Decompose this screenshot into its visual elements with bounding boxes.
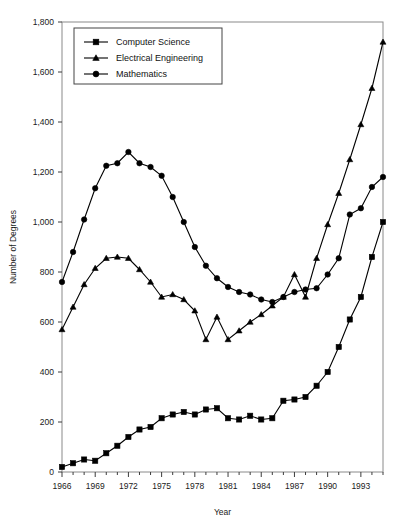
data-point-square [93,39,99,45]
x-axis-tick-label: 1972 [119,481,138,491]
legend-label-electrical-engineering: Electrical Engineering [116,53,203,63]
data-point-circle [104,163,109,168]
data-point-circle [380,174,385,179]
data-point-circle [159,173,164,178]
x-axis-tick-label: 1987 [285,481,304,491]
data-point-square [159,416,164,421]
data-point-square [192,412,197,417]
y-axis-tick-label: 1,200 [33,167,55,177]
data-point-circle [70,249,75,254]
data-point-circle [126,149,131,154]
x-axis-tick-label: 1993 [351,481,370,491]
data-point-square [104,451,109,456]
data-point-circle [137,161,142,166]
y-axis-tick-label: 1,000 [33,217,55,227]
data-point-square [237,417,242,422]
data-point-circle [59,279,64,284]
data-point-square [93,458,98,463]
data-point-square [358,294,363,299]
line-chart: 02004006008001,0001,2001,4001,6001,80019… [0,0,404,529]
data-point-square [292,397,297,402]
data-point-circle [314,286,319,291]
x-axis-title: Year [214,507,231,517]
data-point-circle [115,161,120,166]
data-point-square [281,398,286,403]
x-axis-tick-label: 1969 [86,481,105,491]
data-point-square [270,416,275,421]
data-point-circle [336,256,341,261]
legend-label-mathematics: Mathematics [116,69,168,79]
data-point-square [303,394,308,399]
data-point-square [70,461,75,466]
data-point-circle [358,206,363,211]
data-point-circle [170,194,175,199]
x-axis-tick-label: 1978 [185,481,204,491]
data-point-circle [236,289,241,294]
data-point-circle [214,276,219,281]
data-point-circle [347,212,352,217]
data-point-square [214,406,219,411]
y-axis-tick-label: 1,600 [33,67,55,77]
data-point-circle [81,217,86,222]
data-point-square [248,413,253,418]
chart-figure: 02004006008001,0001,2001,4001,6001,80019… [0,0,404,529]
plot-frame [62,22,383,472]
data-point-circle [225,284,230,289]
data-point-circle [181,219,186,224]
y-axis-tick-label: 1,400 [33,117,55,127]
y-axis-tick-label: 0 [49,467,54,477]
y-axis-tick-label: 400 [40,367,54,377]
data-point-circle [203,263,208,268]
data-point-circle [292,289,297,294]
data-point-circle [93,71,99,77]
data-point-square [203,407,208,412]
data-point-square [82,457,87,462]
data-point-circle [192,244,197,249]
y-axis-tick-label: 200 [40,417,54,427]
x-axis-tick-label: 1984 [252,481,271,491]
x-axis-tick-label: 1966 [53,481,72,491]
data-point-circle [369,184,374,189]
data-point-square [148,424,153,429]
y-axis-tick-label: 800 [40,267,54,277]
data-point-square [137,427,142,432]
y-axis-title: Number of Degrees [8,210,18,284]
y-axis-tick-label: 600 [40,317,54,327]
x-axis-tick-label: 1975 [152,481,171,491]
data-point-square [115,443,120,448]
legend-label-computer-science: Computer Science [116,37,190,47]
data-point-square [325,369,330,374]
x-axis-tick-label: 1990 [318,481,337,491]
data-point-circle [281,294,286,299]
data-point-circle [270,299,275,304]
data-point-square [170,412,175,417]
data-point-square [259,417,264,422]
data-point-circle [92,186,97,191]
data-point-square [369,254,374,259]
y-axis-tick-label: 1,800 [33,17,55,27]
data-point-square [181,409,186,414]
data-point-square [225,416,230,421]
data-point-square [126,434,131,439]
x-axis-tick-label: 1981 [219,481,238,491]
data-point-circle [303,287,308,292]
data-point-circle [325,272,330,277]
data-point-square [336,344,341,349]
data-point-square [59,464,64,469]
data-point-square [347,317,352,322]
data-point-square [380,219,385,224]
data-point-square [314,383,319,388]
data-point-circle [148,164,153,169]
data-point-circle [247,292,252,297]
data-point-circle [259,297,264,302]
